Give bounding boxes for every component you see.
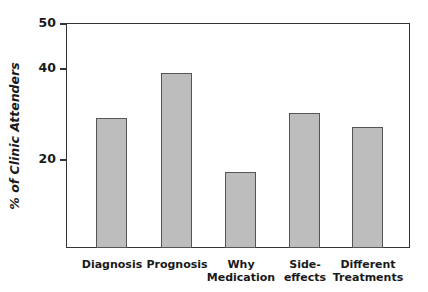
bar-prognosis bbox=[161, 73, 192, 249]
bar-why-medication bbox=[225, 172, 256, 249]
bar-chart: % of Clinic Attenders 50 40 20 Diagnosis… bbox=[0, 0, 428, 292]
y-tick-50 bbox=[60, 23, 67, 25]
y-tick-label-50: 50 bbox=[39, 15, 56, 30]
y-tick-label-40: 40 bbox=[39, 60, 56, 75]
y-tick-20 bbox=[60, 159, 67, 161]
bar-diagnosis bbox=[96, 118, 127, 249]
y-tick-label-20: 20 bbox=[39, 151, 56, 166]
y-tick-40 bbox=[60, 68, 67, 70]
bar-different-treatments bbox=[352, 127, 383, 249]
x-label-different-treatments: Different Treatments bbox=[323, 258, 413, 284]
y-axis-title: % of Clinic Attenders bbox=[7, 62, 22, 209]
bar-side-effects bbox=[289, 113, 320, 248]
